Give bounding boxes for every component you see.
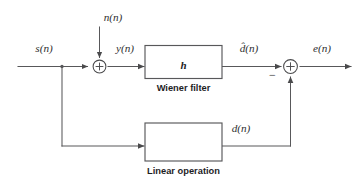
summing-junction-error-adder: − — [269, 60, 297, 82]
block-diagram-figure: h Wiener filter Linear operation − s(n) … — [0, 0, 363, 182]
linear-operation-box — [145, 123, 222, 161]
wiener-filter-inner-label: h — [180, 59, 186, 71]
error-adder-minus-sign: − — [269, 68, 276, 82]
label-signal-n: n(n) — [104, 11, 123, 24]
linear-operation-caption: Linear operation — [147, 166, 220, 176]
summing-junction-noise-adder — [93, 60, 106, 73]
wiener-filter-diagram-canvas: h Wiener filter Linear operation − s(n) … — [0, 0, 363, 182]
label-signal-y: y(n) — [115, 42, 134, 55]
label-signal-s: s(n) — [35, 42, 53, 55]
label-signal-d-hat-text: d̂(n) — [240, 42, 259, 55]
label-signal-d: d(n) — [232, 122, 251, 135]
block-linear-operation: Linear operation — [145, 123, 222, 176]
wiener-filter-caption: Wiener filter — [157, 83, 211, 93]
label-signal-d-hat: d̂(n) — [240, 42, 259, 55]
block-wiener-filter: h Wiener filter — [145, 46, 222, 94]
label-signal-e: e(n) — [313, 42, 331, 55]
